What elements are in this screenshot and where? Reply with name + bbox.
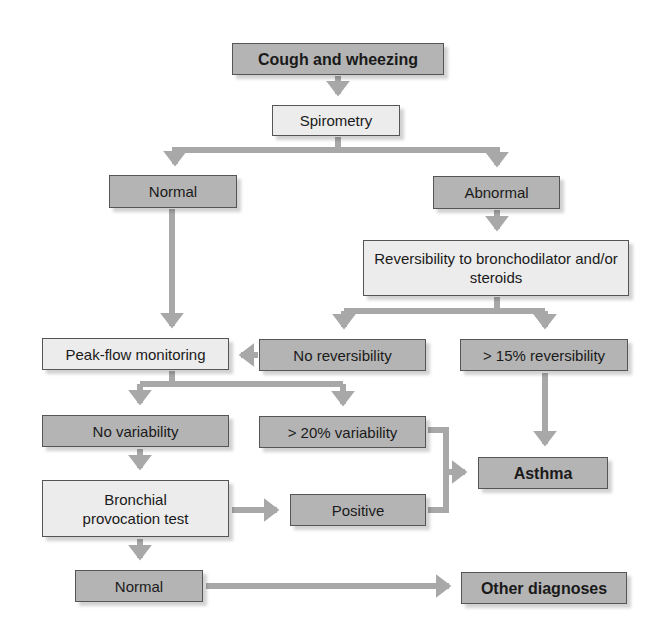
node-asthma: Asthma bbox=[478, 457, 608, 489]
node-label: > 20% variability bbox=[288, 423, 398, 442]
node-label: Positive bbox=[332, 501, 385, 520]
node-label: Asthma bbox=[514, 464, 573, 483]
node-positive: Positive bbox=[290, 494, 426, 526]
node-label: No reversibility bbox=[293, 346, 391, 365]
node-no-variability: No variability bbox=[42, 415, 229, 447]
node-label: Normal bbox=[115, 577, 163, 596]
node-other-diagnoses: Other diagnoses bbox=[461, 572, 627, 604]
node-peak-flow-monitoring: Peak-flow monitoring bbox=[42, 338, 229, 370]
node-abnormal: Abnormal bbox=[433, 176, 560, 209]
node-label: Other diagnoses bbox=[481, 579, 607, 598]
node-reversibility-test: Reversibility to bronchodilator and/or s… bbox=[363, 240, 629, 296]
node-gt20-variability: > 20% variability bbox=[259, 416, 426, 448]
node-label: Normal bbox=[149, 182, 197, 201]
connector-arrows bbox=[0, 0, 669, 635]
node-normal-spirometry: Normal bbox=[109, 175, 237, 208]
node-label: Cough and wheezing bbox=[258, 50, 418, 69]
node-label: No variability bbox=[93, 422, 179, 441]
node-label: Reversibility to bronchodilator and/or s… bbox=[374, 249, 618, 287]
node-label: > 15% reversibility bbox=[483, 346, 605, 365]
node-spirometry: Spirometry bbox=[272, 105, 400, 136]
node-label: Peak-flow monitoring bbox=[65, 345, 205, 364]
node-no-reversibility: No reversibility bbox=[259, 339, 426, 371]
node-label: Abnormal bbox=[464, 183, 528, 202]
node-normal-provocation: Normal bbox=[75, 570, 203, 602]
node-gt15-reversibility: > 15% reversibility bbox=[460, 339, 628, 371]
node-label: Bronchial provocation test bbox=[73, 490, 198, 528]
node-cough-and-wheezing: Cough and wheezing bbox=[232, 43, 444, 75]
node-label: Spirometry bbox=[300, 111, 373, 130]
node-bronchial-provocation-test: Bronchial provocation test bbox=[42, 480, 229, 537]
